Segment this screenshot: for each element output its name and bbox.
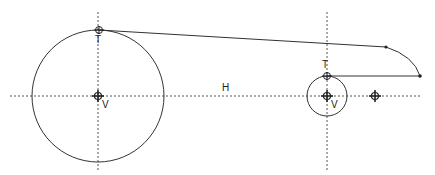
extra-crosshair-icon [369, 90, 381, 102]
diagram-canvas: T V H T V [0, 0, 435, 175]
small-center-label: V [331, 99, 338, 110]
horizontal-axis-label: H [222, 82, 229, 93]
small-tangent-label: T [322, 59, 328, 70]
large-center-label: V [102, 99, 109, 110]
large-tangent-marker [94, 26, 104, 34]
arc-end-dot [418, 74, 422, 78]
large-tangent-label: T [95, 34, 101, 45]
belt-arc [386, 47, 420, 76]
arc-start-dot [384, 45, 387, 48]
small-tangent-marker [322, 72, 332, 80]
tangent-line [99, 30, 386, 47]
